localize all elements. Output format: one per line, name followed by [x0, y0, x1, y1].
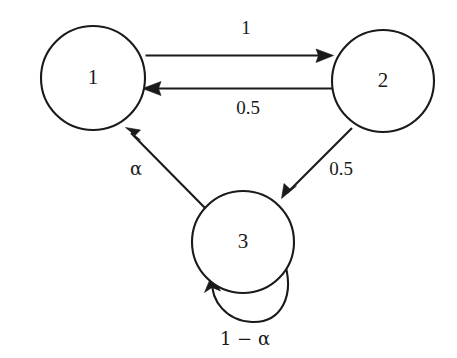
state-diagram-canvas: 1 2 3 1 0.5 0.5 α 1 − α	[0, 0, 457, 358]
edge-label-2-to-1: 0.5	[236, 97, 260, 118]
edge-label-3-to-1: α	[130, 158, 142, 179]
edge-label-3-to-3: 1 − α	[220, 328, 270, 349]
edge-2-to-1	[143, 82, 335, 96]
node-3[interactable]: 3	[192, 191, 294, 293]
node-1[interactable]: 1	[41, 26, 145, 130]
edge-3-to-1-arrowhead	[126, 128, 141, 141]
node-3-label: 3	[238, 229, 249, 253]
node-2[interactable]: 2	[332, 30, 434, 132]
edge-label-1-to-2: 1	[241, 17, 251, 38]
edge-1-to-2	[146, 49, 334, 63]
node-1-label: 1	[88, 65, 99, 89]
edge-1-to-2-arrowhead	[316, 49, 334, 63]
state-diagram-graphic: 1 2 3 1 0.5 0.5 α 1 − α	[0, 0, 457, 358]
edge-label-2-to-3: 0.5	[329, 158, 353, 179]
edge-3-to-1-line	[131, 133, 207, 210]
node-2-label: 2	[378, 68, 389, 92]
